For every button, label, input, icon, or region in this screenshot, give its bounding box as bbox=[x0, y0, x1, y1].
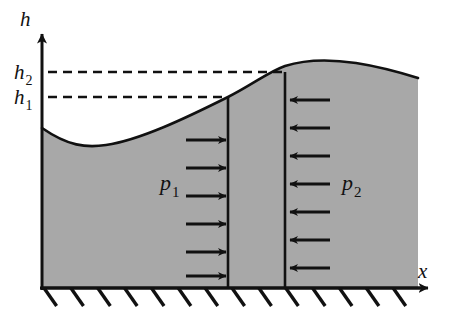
fluid-body bbox=[42, 60, 418, 288]
hydrostatic-pressure-diagram: h x h2h1 p1 p2 bbox=[0, 0, 458, 324]
level-label-h2: h2 bbox=[14, 60, 33, 88]
fixed-support-hatching bbox=[40, 288, 420, 306]
figure-canvas: h x h2h1 p1 p2 bbox=[0, 0, 458, 324]
vertical-axis: h bbox=[20, 7, 42, 290]
axis-label-h: h bbox=[20, 7, 31, 31]
axis-label-x: x bbox=[417, 259, 428, 283]
level-label-h1: h1 bbox=[14, 85, 33, 113]
